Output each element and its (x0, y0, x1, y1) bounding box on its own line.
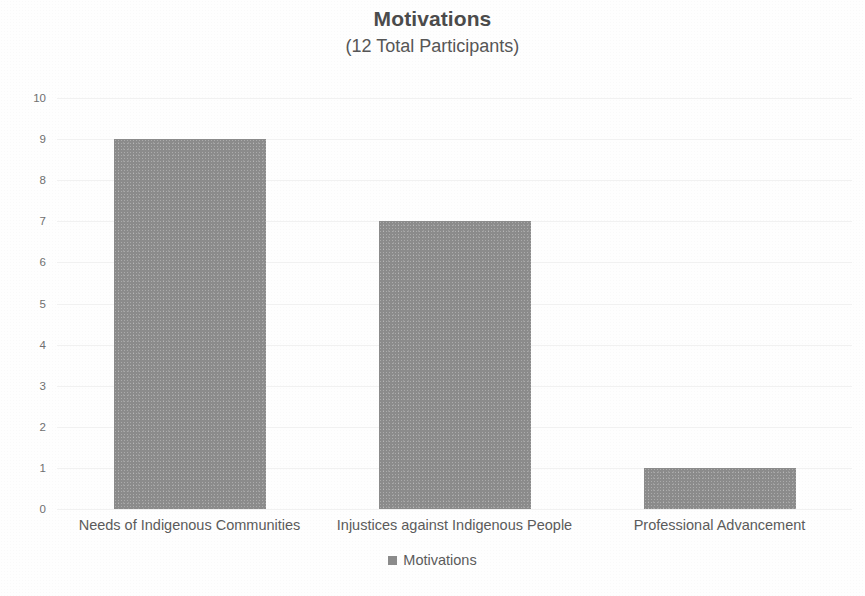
legend-label: Motivations (403, 552, 476, 568)
chart-title-block: Motivations (12 Total Participants) (0, 6, 865, 59)
y-axis-tick-label: 2 (12, 421, 46, 433)
chart-legend: Motivations (0, 552, 865, 568)
x-axis-category-label: Injustices against Indigenous People (322, 514, 587, 536)
bar (644, 468, 796, 509)
y-axis-tick-label: 3 (12, 380, 46, 392)
y-axis-tick-label: 1 (12, 462, 46, 474)
bar (379, 221, 531, 509)
y-axis-tick-label: 0 (12, 503, 46, 515)
legend-swatch-icon (388, 556, 397, 565)
y-axis-tick-labels: 109876543210 (0, 98, 46, 509)
gridline (57, 509, 852, 510)
y-axis-tick-label: 9 (12, 133, 46, 145)
y-axis-tick-label: 8 (12, 174, 46, 186)
bar (114, 139, 266, 509)
gridline (57, 98, 852, 99)
x-axis-category-labels: Needs of Indigenous CommunitiesInjustice… (57, 514, 852, 540)
plot-area (57, 98, 852, 509)
y-axis-tick-label: 6 (12, 256, 46, 268)
chart-title: Motivations (0, 6, 865, 32)
y-axis-tick-label: 7 (12, 215, 46, 227)
x-axis-category-label: Professional Advancement (587, 514, 852, 536)
chart-subtitle: (12 Total Participants) (0, 34, 865, 59)
chart-figure: Motivations (12 Total Participants) 1098… (0, 0, 865, 596)
y-axis-tick-label: 4 (12, 339, 46, 351)
y-axis-tick-label: 5 (12, 298, 46, 310)
y-axis-tick-label: 10 (12, 92, 46, 104)
x-axis-category-label: Needs of Indigenous Communities (57, 514, 322, 536)
